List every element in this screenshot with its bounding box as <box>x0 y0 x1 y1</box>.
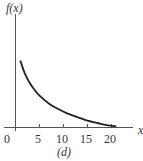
y-axis-label: f(x) <box>6 2 23 14</box>
tick-label-5: 5 <box>35 133 41 145</box>
tick-label-15: 15 <box>80 133 92 145</box>
tick-label-10: 10 <box>56 133 68 145</box>
tick-label-0: 0 <box>4 133 10 145</box>
function-plot <box>0 0 143 161</box>
x-axis-label: x <box>138 124 143 136</box>
figure-caption: (d) <box>57 146 71 158</box>
function-curve <box>20 61 116 127</box>
tick-label-20: 20 <box>104 133 116 145</box>
